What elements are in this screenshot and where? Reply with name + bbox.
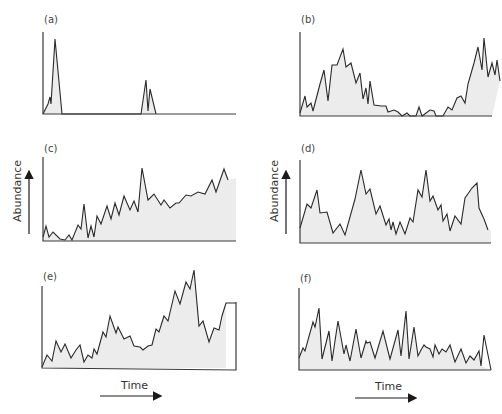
panel-d-label: (d) <box>301 143 315 154</box>
panel-a-axes <box>43 32 236 114</box>
panel-f: (f) Time <box>299 273 491 398</box>
panel-c-label: (c) <box>44 143 57 154</box>
panel-b: (b) <box>300 14 500 116</box>
panel-c: (c) Abundance <box>11 143 236 241</box>
x-axis-title-e: Time <box>120 379 148 392</box>
y-axis-title-c: Abundance <box>11 160 24 222</box>
y-axis-title-d: Abundance <box>268 160 281 222</box>
panel-a-label: (a) <box>44 14 58 25</box>
panel-a-area <box>43 39 236 114</box>
panel-e-label: (e) <box>43 271 57 282</box>
x-axis-title-f: Time <box>374 380 402 393</box>
panel-a: (a) <box>43 14 236 114</box>
panel-b-label: (b) <box>301 14 315 25</box>
panel-d: (d) Abundance <box>268 143 491 243</box>
panel-e: (e) Time <box>42 270 236 396</box>
panel-c-area <box>43 168 236 241</box>
panel-f-label: (f) <box>300 273 311 284</box>
figure-canvas: (a) (b) (c) Abundance (d) Abundance (e) … <box>0 0 502 414</box>
